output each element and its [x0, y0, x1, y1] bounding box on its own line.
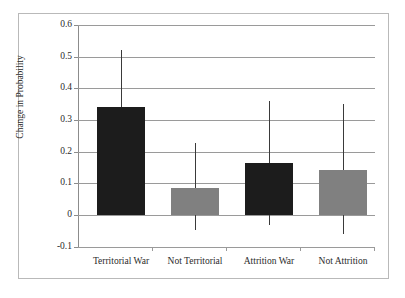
y-tick-label-7: -0.1 [32, 242, 72, 252]
x-tick-mark-1 [226, 247, 227, 251]
x-tick-mark-2 [300, 247, 301, 251]
error-bar-territorial-war [121, 50, 122, 107]
x-tick-label-not-territorial: Not Territorial [168, 256, 223, 266]
y-axis-tick-labels: 0.6 0.5 0.4 0.3 0.2 0.1 0 -0.1 [28, 0, 72, 298]
bar-territorial-war[interactable] [97, 107, 145, 215]
bar-group-not-attrition[interactable] [319, 25, 367, 247]
y-tick-label-6: 0 [32, 210, 72, 220]
x-tick-label-not-attrition: Not Attrition [319, 256, 368, 266]
bar-attrition-war[interactable] [245, 163, 293, 215]
figure-canvas: Change in Probability 0.6 0.5 0.4 0.3 0.… [0, 0, 405, 298]
y-tick-label-5: 0.1 [32, 178, 72, 188]
bar-group-territorial-war[interactable] [97, 25, 145, 247]
y-tick-label-0: 0.6 [32, 20, 72, 30]
y-axis-title: Change in Probability [15, 37, 25, 157]
error-bar-not-territorial [195, 143, 196, 230]
bar-group-not-territorial[interactable] [171, 25, 219, 247]
plot-area [78, 25, 375, 247]
x-tick-label-territorial-war: Territorial War [93, 256, 149, 266]
y-tick-label-2: 0.4 [32, 83, 72, 93]
x-axis-tick-labels: Territorial War Not Territorial Attritio… [78, 256, 375, 274]
x-tick-mark-3 [374, 247, 375, 251]
y-tick-label-1: 0.5 [32, 52, 72, 62]
y-tick-label-4: 0.2 [32, 147, 72, 157]
y-tick-label-3: 0.3 [32, 115, 72, 125]
x-tick-label-attrition-war: Attrition War [244, 256, 295, 266]
bar-not-attrition[interactable] [319, 170, 367, 215]
bar-not-territorial[interactable] [171, 188, 219, 215]
x-tick-mark-0 [152, 247, 153, 251]
bar-group-attrition-war[interactable] [245, 25, 293, 247]
